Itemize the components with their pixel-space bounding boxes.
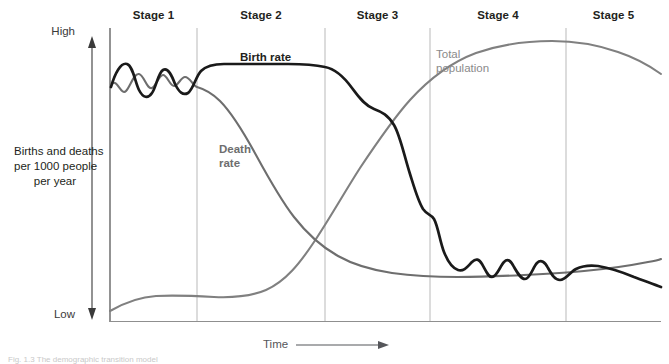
figure-caption: Fig. 1.3 The demographic transition mode… <box>8 355 158 364</box>
stage-label-1: Stage 1 <box>110 9 197 23</box>
chart-canvas <box>0 0 669 364</box>
y-arrow-down-head <box>88 308 96 320</box>
y-axis-high-label: High <box>51 25 75 39</box>
y-axis-title: Births and deaths per 1000 people per ye… <box>14 144 76 189</box>
birth-rate-label: Birth rate <box>240 51 291 65</box>
y-arrow-up-head <box>88 36 96 48</box>
death-rate-label: Death rate <box>219 143 251 170</box>
y-scale-arrow <box>88 36 96 320</box>
total-population-curve <box>110 41 661 311</box>
death-rate-curve <box>112 74 661 277</box>
stage-label-4: Stage 4 <box>430 9 566 23</box>
time-arrow-head <box>378 341 389 349</box>
time-arrow <box>296 341 389 349</box>
x-axis-title: Time <box>263 338 288 352</box>
stage-label-2: Stage 2 <box>197 9 325 23</box>
birth-rate-curve <box>111 64 661 287</box>
stage-label-3: Stage 3 <box>325 9 430 23</box>
total-population-label: Total population <box>436 48 489 75</box>
stage-label-5: Stage 5 <box>566 9 661 23</box>
demographic-transition-figure: Stage 1 Stage 2 Stage 3 Stage 4 Stage 5 … <box>0 0 669 364</box>
stage-dividers <box>197 28 566 322</box>
y-axis-low-label: Low <box>54 308 75 322</box>
